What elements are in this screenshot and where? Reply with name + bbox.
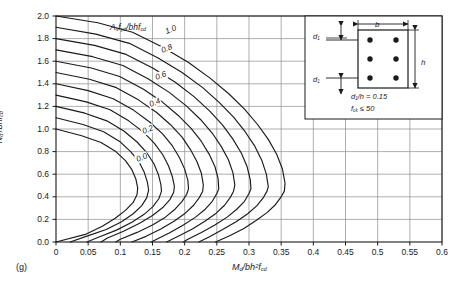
y-tick-label: 1.6 — [18, 56, 49, 66]
x-tick-label: 0.35 — [268, 247, 294, 257]
curve-family-label: Asfyd/bhfcd — [110, 22, 146, 32]
inset-note-ratio: d1/h = 0.15 — [351, 92, 387, 101]
y-tick-label: 0.2 — [18, 214, 49, 224]
y-axis-title: Nd /bhfcd — [0, 111, 4, 143]
y-tick-label: 1.4 — [18, 78, 49, 88]
inset-rebar-dot — [393, 37, 398, 42]
x-tick-label: 0.05 — [75, 247, 101, 257]
y-tick-label: 1.8 — [18, 33, 49, 43]
x-tick-label: 0.55 — [397, 247, 423, 257]
y-tick-label: 0.0 — [18, 237, 49, 247]
interaction-diagram-figure: 00.050.10.150.20.250.30.350.40.450.50.55… — [0, 0, 465, 286]
inset-dim-label-b: b — [375, 20, 379, 29]
inset-dim-label-d1-top: d1 — [313, 32, 320, 41]
x-tick-label: 0.5 — [365, 247, 391, 257]
x-tick-label: 0.25 — [204, 247, 230, 257]
y-tick-label: 0.4 — [18, 191, 49, 201]
x-tick-label: 0.1 — [107, 247, 133, 257]
y-tick-label: 2.0 — [18, 11, 49, 21]
inset-rebar-dot — [367, 37, 372, 42]
x-tick-label: 0.3 — [236, 247, 262, 257]
interaction-curve — [56, 118, 149, 242]
inset-rebar-dot — [367, 75, 372, 80]
interaction-curve — [56, 39, 251, 242]
inset-section-outline — [358, 30, 408, 88]
chart-canvas — [0, 0, 465, 286]
y-tick-label: 1.2 — [18, 101, 49, 111]
y-tick-label: 0.8 — [18, 146, 49, 156]
x-tick-label: 0.6 — [429, 247, 455, 257]
x-tick-label: 0 — [43, 247, 69, 257]
interaction-curve — [56, 95, 174, 242]
panel-label: (g) — [16, 262, 27, 272]
x-tick-label: 0.45 — [333, 247, 359, 257]
x-tick-label: 0.2 — [172, 247, 198, 257]
y-tick-label: 0.6 — [18, 169, 49, 179]
x-tick-label: 0.15 — [140, 247, 166, 257]
inset-rebar-dot — [393, 75, 398, 80]
y-tick-label: 1.0 — [18, 124, 49, 134]
inset-dim-label-h: h — [421, 58, 425, 67]
x-axis-title: Md/bh2fcd — [232, 262, 267, 272]
x-tick-label: 0.4 — [300, 247, 326, 257]
inset-dim-label-d1-bottom: d1 — [313, 75, 320, 84]
inset-note-fck: fck ≤ 50 — [351, 104, 374, 113]
inset-rebar-dot — [393, 56, 398, 61]
inset-rebar-dot — [367, 56, 372, 61]
